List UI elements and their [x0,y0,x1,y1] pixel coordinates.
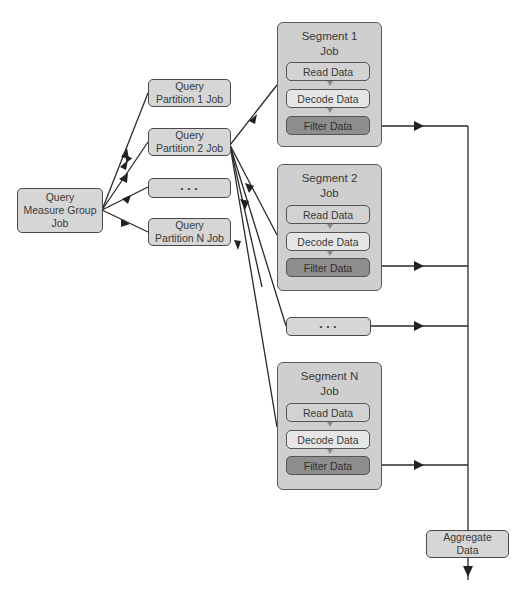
connector-lines [0,0,524,597]
segment-2-decode-data: Decode Data [286,232,370,251]
query-partition-1-job-box: Query Partition 1 Job [148,79,231,107]
segment-ellipsis-box: • • • [286,317,371,336]
segment-2-title-1: Segment 2 [278,171,381,186]
partition-n-label-2: Partition N Job [155,232,224,245]
segment-2-read-data: Read Data [286,205,370,224]
segment-n-job-box: Segment N Job Read Data Decode Data Filt… [277,362,382,490]
segment-n-title-2: Job [278,384,381,399]
segment-ellipsis-label: • • • [320,320,338,333]
down-arrow-icon [327,422,333,427]
down-arrow-icon [327,224,333,229]
segment-2-filter-data: Filter Data [286,258,370,277]
segment-1-title: Segment 1 Job [278,29,381,59]
partition-1-label-2: Partition 1 Job [156,93,223,106]
partition-ellipsis-label: • • • [181,182,199,195]
down-arrow-icon [327,251,333,256]
segment-n-filter-data: Filter Data [286,456,370,475]
segment-1-job-box: Segment 1 Job Read Data Decode Data Filt… [277,22,382,147]
partition-1-label-1: Query [175,80,204,93]
root-label-3: Job [52,217,69,230]
aggregate-label-1: Aggregate [443,531,491,544]
down-arrow-icon [327,449,333,454]
segment-2-title: Segment 2 Job [278,171,381,201]
partition-n-label-1: Query [175,219,204,232]
down-arrow-icon [327,108,333,113]
segment-1-title-2: Job [278,44,381,59]
partition-2-label-1: Query [175,129,204,142]
query-measure-group-job-box: Query Measure Group Job [17,188,103,233]
aggregate-label-2: Data [456,544,478,557]
query-partition-n-job-box: Query Partition N Job [148,218,231,246]
segment-2-title-2: Job [278,186,381,201]
segment-1-decode-data: Decode Data [286,89,370,108]
down-arrow-icon [327,81,333,86]
segment-1-read-data: Read Data [286,62,370,81]
aggregate-data-box: Aggregate Data [426,530,509,558]
root-label-1: Query [46,191,75,204]
segment-n-decode-data: Decode Data [286,430,370,449]
query-partition-2-job-box: Query Partition 2 Job [148,128,231,156]
partition-ellipsis-box: • • • [148,178,231,198]
segment-2-job-box: Segment 2 Job Read Data Decode Data Filt… [277,164,382,291]
root-label-2: Measure Group [24,204,97,217]
segment-n-title-1: Segment N [278,369,381,384]
segment-n-read-data: Read Data [286,403,370,422]
partition-2-label-2: Partition 2 Job [156,142,223,155]
segment-1-filter-data: Filter Data [286,116,370,135]
segment-1-title-1: Segment 1 [278,29,381,44]
segment-n-title: Segment N Job [278,369,381,399]
